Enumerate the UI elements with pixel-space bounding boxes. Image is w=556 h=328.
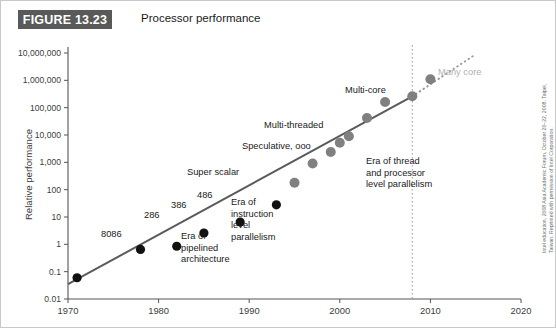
- data-point: [407, 91, 417, 101]
- chart-annotation: 8086: [101, 229, 122, 241]
- data-point: [136, 245, 145, 254]
- chart-annotation: Era of instruction level parallelism: [231, 197, 275, 243]
- chart-annotation: Era of thread and processor level parall…: [366, 156, 432, 191]
- y-axis-tick: 1,000,000: [1, 75, 61, 85]
- x-axis-tick: 1970: [58, 305, 79, 316]
- chart-plot-area: Relative performance 0.010.11101001,0001…: [1, 1, 556, 328]
- chart-annotation: Speculative, ooo: [242, 141, 311, 153]
- data-point: [72, 273, 81, 282]
- x-axis-tick: 2000: [329, 305, 350, 316]
- chart-annotation: Multi-core: [345, 85, 386, 97]
- x-axis-tick: 2010: [420, 305, 441, 316]
- data-point: [335, 138, 345, 148]
- y-axis-tick: 10,000,000: [1, 48, 61, 58]
- x-axis-tick: 1980: [148, 305, 169, 316]
- chart-svg: [1, 1, 556, 328]
- chart-annotation: 486: [197, 190, 213, 202]
- chart-annotation: 386: [171, 200, 187, 212]
- y-axis-tick: 10,000: [1, 130, 61, 140]
- y-axis-tick: 1,000: [1, 157, 61, 167]
- x-axis-tick: 1990: [239, 305, 260, 316]
- figure-container: FIGURE 13.23 Processor performance Relat…: [0, 0, 556, 328]
- trend-line: [68, 96, 412, 284]
- x-axis-tick: 2020: [511, 305, 532, 316]
- chart-annotation: Many core: [438, 67, 481, 79]
- y-axis-tick: 10: [1, 212, 61, 222]
- data-point: [172, 242, 181, 251]
- y-axis-tick: 0.01: [1, 294, 61, 304]
- chart-annotation: Super scalar: [187, 167, 239, 179]
- y-axis-tick: 100: [1, 185, 61, 195]
- chart-annotation: Multi-threaded: [264, 120, 323, 132]
- data-point: [326, 147, 336, 157]
- y-axis-tick: 0.1: [1, 267, 61, 277]
- axis-lines: [68, 47, 521, 299]
- data-point: [425, 74, 435, 84]
- chart-annotation: Era of pipelined architecture: [181, 231, 230, 266]
- y-axis-tick: 100,000: [1, 103, 61, 113]
- data-point: [380, 97, 390, 107]
- data-point: [362, 113, 372, 123]
- data-point: [344, 131, 354, 141]
- data-point: [290, 178, 300, 188]
- y-axis-tick: 1: [1, 239, 61, 249]
- data-point: [308, 159, 318, 169]
- chart-annotation: 286: [144, 210, 160, 222]
- source-credit: Intel education, 2008 Asia Academic Foru…: [541, 83, 555, 253]
